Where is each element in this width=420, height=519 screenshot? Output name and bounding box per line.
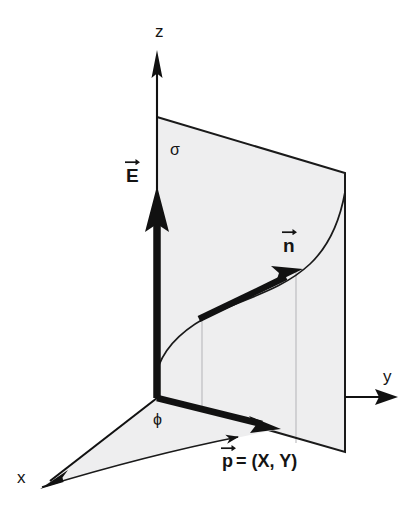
axis-label-y: y — [383, 368, 392, 385]
vector-label-p-wrap: p — [222, 452, 233, 470]
diagram-canvas — [0, 0, 420, 519]
vector-label-n-wrap: n — [283, 236, 295, 255]
vector-label-E-text: E — [126, 166, 139, 185]
vector-label-n: n — [283, 236, 295, 255]
angle-label-phi: ϕ — [153, 412, 162, 428]
vector-label-p: p = (X, Y) — [222, 452, 297, 470]
axis-label-x: x — [17, 469, 26, 486]
vector-label-n-text: n — [283, 236, 295, 255]
vector-label-p-equals: = (X, Y) — [236, 451, 297, 471]
axis-label-z: z — [155, 23, 164, 40]
vector-label-E: E — [126, 166, 139, 185]
surface-charge-label-sigma: σ — [170, 142, 180, 158]
vector-label-p-text: p — [222, 452, 233, 470]
vector-label-E-wrap: E — [126, 166, 139, 185]
physics-diagram-figure: z y x σ ϕ E n p = — [0, 0, 420, 519]
